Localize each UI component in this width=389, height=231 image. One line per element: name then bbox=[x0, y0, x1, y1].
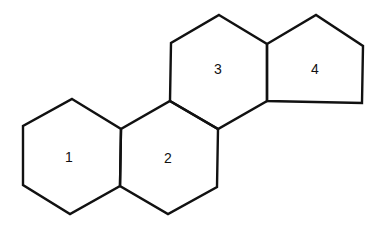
ring-3-label: 3 bbox=[214, 61, 222, 77]
ring-4-pentagon bbox=[267, 15, 363, 103]
fused-ring-diagram: 1 2 3 4 bbox=[0, 0, 389, 231]
ring-4-label: 4 bbox=[311, 61, 319, 77]
ring-2-label: 2 bbox=[164, 150, 172, 166]
ring-1-label: 1 bbox=[65, 149, 73, 165]
